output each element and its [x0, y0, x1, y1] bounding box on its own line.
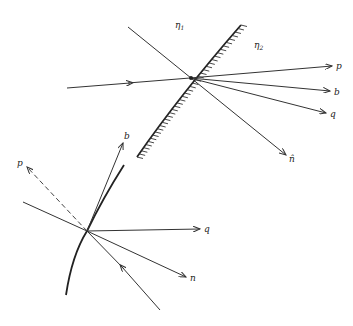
vector-q-top: [190, 78, 326, 113]
eta1-label: η1: [175, 20, 184, 31]
label-p-bottom: p: [17, 158, 23, 168]
label-q-top: q: [330, 109, 336, 119]
vector-q-bottom: [87, 229, 200, 231]
vector-p-bottom: [27, 167, 87, 231]
incidence-point: [189, 76, 193, 80]
incident-ray: [67, 83, 130, 88]
vector-b-bottom: [87, 143, 123, 231]
label-b-bottom: b: [124, 131, 130, 141]
incoming-line-left: [23, 202, 87, 231]
label-q-bottom: q: [204, 224, 210, 234]
vector-b-top: [190, 78, 330, 91]
vector-n-bottom: [87, 231, 186, 277]
interface-surface: [137, 25, 241, 157]
label-b-top: b: [334, 87, 340, 97]
bottom-diagram: p b q n: [17, 131, 210, 310]
incoming-ray-bottom: [122, 267, 160, 310]
eta2-label: η2: [254, 40, 263, 51]
top-diagram: η1 η2 p b q n̂: [67, 20, 342, 164]
label-n-bottom: n: [190, 273, 196, 283]
label-p-top: p: [336, 61, 342, 71]
label-nhat-top: n̂: [289, 154, 295, 164]
surface-hatching: [137, 25, 247, 159]
refraction-diagram: η1 η2 p b q n̂ p b q n: [0, 0, 353, 326]
